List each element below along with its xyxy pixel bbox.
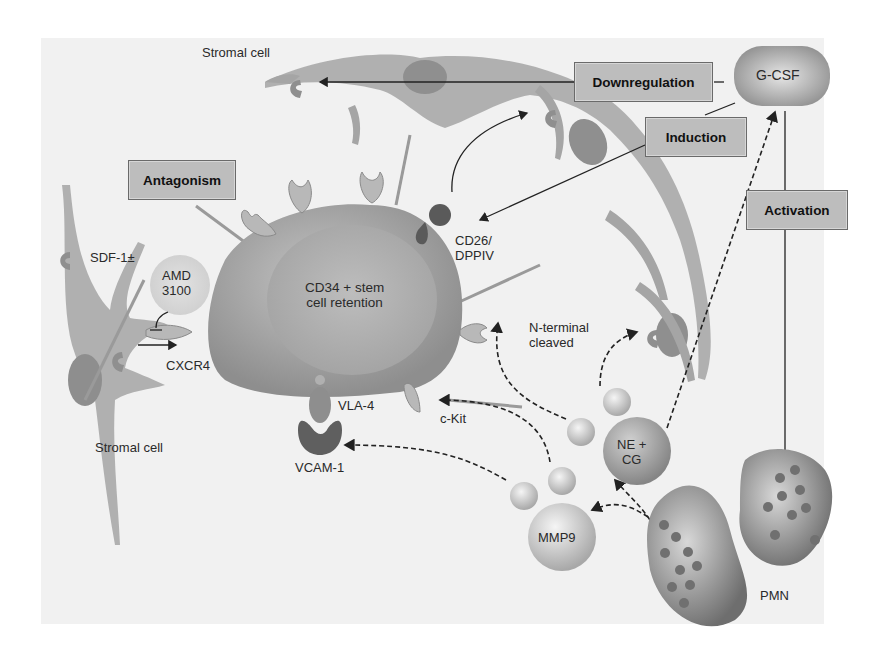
- label-stem-cell: CD34 + stem cell retention: [305, 280, 384, 310]
- label-mmp9: MMP9: [538, 530, 576, 545]
- amd-line1: AMD: [162, 268, 191, 283]
- label-sdf1: SDF-1±: [90, 250, 135, 265]
- cd26-line2: DPPIV: [455, 248, 494, 263]
- cd26-line1: CD26/: [455, 233, 494, 248]
- stem-cell-line1: CD34 + stem: [305, 280, 384, 295]
- label-stromal-cell-left: Stromal cell: [95, 440, 163, 455]
- label-vla4: VLA-4: [338, 398, 374, 413]
- box-induction: Induction: [645, 117, 747, 157]
- nterm-line2: cleaved: [529, 335, 589, 350]
- label-gcsf: G-CSF: [756, 68, 800, 83]
- label-cd26-dppiv: CD26/ DPPIV: [455, 233, 494, 263]
- ne-line2: CG: [617, 452, 646, 467]
- ne-line1: NE +: [617, 437, 646, 452]
- label-cxcr4: CXCR4: [166, 358, 210, 373]
- label-n-terminal-cleaved: N-terminal cleaved: [529, 320, 589, 350]
- label-pmn: PMN: [760, 588, 789, 603]
- label-stromal-cell-top: Stromal cell: [202, 45, 270, 60]
- pmn-neutrophils: [647, 449, 832, 626]
- box-antagonism: Antagonism: [128, 160, 236, 200]
- diagram-artwork: [0, 0, 891, 656]
- label-amd3100: AMD 3100: [162, 268, 191, 298]
- nterm-line1: N-terminal: [529, 320, 589, 335]
- amd-line2: 3100: [162, 283, 191, 298]
- label-ne-cg: NE + CG: [617, 437, 646, 467]
- stem-cell-line2: cell retention: [305, 295, 384, 310]
- label-ckit: c-Kit: [440, 411, 466, 426]
- label-vcam1: VCAM-1: [295, 460, 344, 475]
- box-activation: Activation: [746, 190, 848, 230]
- box-downregulation: Downregulation: [574, 62, 713, 102]
